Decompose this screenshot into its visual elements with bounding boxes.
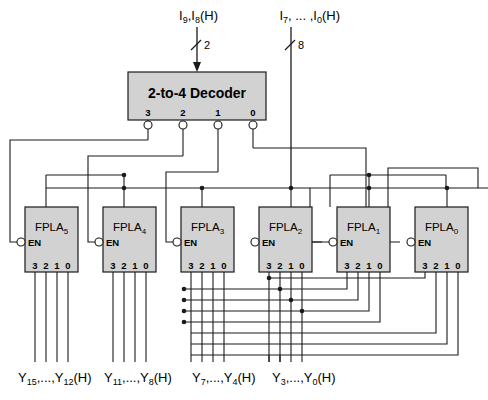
data-input-suffix: (H) [322, 8, 340, 23]
data-input-bus [285, 27, 295, 188]
diagram-canvas: 2-to-4 Decoder 3 2 1 0 FPLA5EN3210FPLA4E… [0, 0, 488, 400]
fpla-1-pin-3: 3 [344, 260, 349, 271]
fpla-1-pin-1: 1 [366, 260, 372, 271]
decoder-block[interactable]: 2-to-4 Decoder 3 2 1 0 [128, 72, 266, 120]
fpla-2-enable-bubble [251, 238, 259, 246]
fpla-4-pin-0: 0 [143, 260, 148, 271]
fpla-3-pin-3: 3 [188, 260, 193, 271]
fpla-2-pin-1: 1 [288, 260, 294, 271]
fpla-2-pin-3: 3 [266, 260, 271, 271]
logic-diagram: 2-to-4 Decoder 3 2 1 0 FPLA5EN3210FPLA4E… [0, 0, 488, 400]
decoder-pin-1: 1 [215, 107, 221, 118]
fpla-4-block[interactable]: FPLA4EN3210 [95, 207, 156, 272]
fpla-3-pin-2: 2 [199, 260, 204, 271]
fpla-0-pin-2: 2 [433, 260, 438, 271]
fpla-2-block[interactable]: FPLA2EN3210 [251, 207, 312, 272]
fpla-2-pin-2: 2 [277, 260, 282, 271]
output-y15-y12: Y15,...,Y12(H) [18, 370, 91, 387]
fpla-5-pin-0: 0 [65, 260, 70, 271]
upper-cross-routing [46, 173, 446, 207]
decoder-input-mid: ,I [188, 8, 195, 23]
output-drops-fpla2 [267, 272, 305, 362]
output-y11-y8: Y11,...,Y8(H) [104, 370, 172, 387]
decoder-output-stubs [144, 120, 257, 172]
fpla-1-pin-2: 2 [355, 260, 360, 271]
output-drops-left [35, 272, 224, 362]
fpla-0-enable-label: EN [418, 237, 431, 248]
fpla-5-enable-label: EN [28, 237, 41, 248]
output-y3-y0: Y3,...,Y0(H) [272, 370, 335, 387]
fpla-0-pin-3: 3 [422, 260, 427, 271]
fpla-3-pin-0: 0 [221, 260, 226, 271]
fpla-3-enable-bubble [173, 238, 181, 246]
data-bus-width-label: 8 [298, 39, 304, 51]
fpla-4-pin-1: 1 [132, 260, 138, 271]
fpla-4-pin-2: 2 [121, 260, 126, 271]
fpla-1-enable-label: EN [340, 237, 353, 248]
fpla-5-pin-2: 2 [43, 260, 48, 271]
decoder-input-suffix: (H) [200, 8, 218, 23]
fpla-block-layer: FPLA5EN3210FPLA4EN3210FPLA3EN3210FPLA2EN… [17, 207, 468, 272]
fpla-1-pin-0: 0 [377, 260, 382, 271]
data-bus-rail [46, 186, 488, 207]
fpla-1-block[interactable]: FPLA1EN3210 [329, 207, 390, 272]
decoder-pin-3: 3 [145, 107, 150, 118]
decoder-input-bus [191, 27, 201, 72]
decoder-pin-2: 2 [180, 107, 185, 118]
fpla-2-pin-0: 0 [299, 260, 304, 271]
fpla-3-pin-1: 1 [210, 260, 216, 271]
fpla-4-enable-bubble [95, 238, 103, 246]
decoder-pin-0: 0 [250, 107, 255, 118]
fpla-5-block[interactable]: FPLA5EN3210 [17, 207, 78, 272]
fpla-1-enable-bubble [329, 238, 337, 246]
decoder-input-label: I9,I8(H) [179, 8, 218, 25]
data-input-mid: , ... ,I [288, 8, 317, 23]
fpla-4-enable-label: EN [106, 237, 119, 248]
fpla-2-enable-label: EN [262, 237, 275, 248]
data-input-label: I7, ... ,I0(H) [279, 8, 340, 25]
fpla-0-pin-1: 1 [444, 260, 450, 271]
output-routing-fpla0 [191, 272, 458, 355]
fpla-5-pin-3: 3 [32, 260, 37, 271]
output-label-layer: Y15,...,Y12(H)Y11,...,Y8(H)Y7,...,Y4(H)Y… [18, 370, 335, 387]
decoder-bus-width-label: 2 [204, 39, 210, 51]
fpla-5-enable-bubble [17, 238, 25, 246]
decoder-label: 2-to-4 Decoder [148, 85, 247, 101]
output-routing-fpla1 [182, 272, 380, 324]
fpla-3-enable-label: EN [184, 237, 197, 248]
fpla-5-pin-1: 1 [54, 260, 60, 271]
fpla-0-block[interactable]: FPLA0EN3210 [407, 207, 468, 272]
output-tick-stubs [269, 355, 280, 362]
fpla-3-block[interactable]: FPLA3EN3210 [173, 207, 234, 272]
fpla-4-pin-3: 3 [110, 260, 115, 271]
fpla-0-pin-0: 0 [455, 260, 460, 271]
output-y7-y4: Y7,...,Y4(H) [192, 370, 255, 387]
fpla-0-enable-bubble [407, 238, 415, 246]
